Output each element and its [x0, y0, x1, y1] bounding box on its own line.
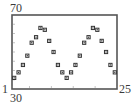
data-point-dot: [66, 77, 67, 78]
data-point-dot: [22, 64, 23, 65]
data-point-dot: [40, 27, 41, 28]
data-point-dot: [18, 72, 19, 73]
data-point-dot: [14, 77, 15, 78]
data-point-dot: [49, 40, 50, 41]
data-point-dot: [97, 29, 98, 30]
x-tick-mark: [12, 87, 13, 88]
x-tick-mark: [29, 87, 30, 88]
data-point-dot: [62, 72, 63, 73]
data-point-dot: [75, 64, 76, 65]
x-tick-mark: [95, 87, 96, 88]
data-point-dot: [44, 29, 45, 30]
y-tick-mark: [14, 61, 15, 62]
data-point-dot: [79, 55, 80, 56]
y-tick-mark: [14, 42, 15, 43]
y-tick-mark: [14, 70, 15, 71]
data-point-dot: [88, 37, 89, 38]
data-point-dot: [27, 55, 28, 56]
x-tick-mark: [117, 87, 118, 88]
data-point-dot: [35, 37, 36, 38]
data-point-dot: [84, 42, 85, 43]
data-point-dot: [31, 42, 32, 43]
x-tick-mark: [51, 87, 52, 88]
data-point-dot: [114, 72, 115, 73]
scatter-plot: [0, 0, 133, 105]
plot-frame: [12, 15, 117, 89]
data-point-dot: [92, 27, 93, 28]
x-tick-mark: [73, 87, 74, 88]
data-point-dot: [53, 51, 54, 52]
data-point-dot: [110, 64, 111, 65]
y-tick-mark: [14, 24, 15, 25]
data-point-dot: [70, 72, 71, 73]
data-point-dot: [101, 40, 102, 41]
data-point-dot: [105, 51, 106, 52]
data-point-dot: [57, 64, 58, 65]
y-tick-mark: [14, 52, 15, 53]
y-tick-mark: [14, 33, 15, 34]
